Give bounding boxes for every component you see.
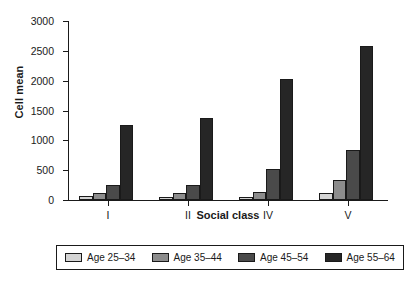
y-axis-tick-label: 1000 <box>31 134 54 146</box>
x-axis-tick <box>348 200 349 206</box>
bar <box>106 185 120 200</box>
bar <box>266 169 280 200</box>
x-axis-tick <box>268 200 269 206</box>
bar <box>333 180 347 200</box>
y-axis-tick: 1500 <box>63 111 68 112</box>
bar <box>346 150 360 200</box>
bar <box>253 192 267 200</box>
bar-chart-figure: Cell mean 050010001500200025003000IIIIVV… <box>0 0 416 281</box>
y-axis-tick: 1000 <box>63 140 68 141</box>
bar-group <box>79 21 133 200</box>
y-axis-tick: 2000 <box>63 81 68 82</box>
y-axis-tick: 500 <box>63 170 68 171</box>
bar <box>360 46 374 200</box>
y-axis-tick-label: 2000 <box>31 75 54 87</box>
legend-swatch-icon <box>238 253 255 262</box>
bar-group <box>159 21 213 200</box>
y-axis-line <box>68 21 69 200</box>
bar <box>79 196 93 200</box>
bar <box>186 185 200 201</box>
legend-item[interactable]: Age 45–54 <box>238 252 308 263</box>
legend-label: Age 55–64 <box>347 252 395 263</box>
bar-group <box>319 21 373 200</box>
y-axis-tick-label: 1500 <box>31 105 54 117</box>
y-axis-tick-label: 500 <box>36 164 54 176</box>
y-axis-tick-label: 3000 <box>31 15 54 27</box>
legend-label: Age 45–54 <box>260 252 308 263</box>
x-axis-tick <box>188 200 189 206</box>
bar <box>280 79 294 200</box>
legend-swatch-icon <box>152 253 169 262</box>
bar-group <box>239 21 293 200</box>
bar <box>159 197 173 200</box>
y-axis-tick-label: 0 <box>48 194 54 206</box>
legend-label: Age 35–44 <box>174 252 222 263</box>
legend-label: Age 25–34 <box>87 252 135 263</box>
y-axis-tick-label: 2500 <box>31 45 54 57</box>
legend-swatch-icon <box>325 253 342 262</box>
y-axis-title: Cell mean <box>13 52 25 132</box>
legend-item[interactable]: Age 55–64 <box>325 252 395 263</box>
legend-item[interactable]: Age 25–34 <box>65 252 135 263</box>
legend-swatch-icon <box>65 253 82 262</box>
x-axis-title: Social class <box>68 209 388 221</box>
x-axis-tick <box>108 200 109 206</box>
x-axis-line <box>68 200 388 201</box>
bar <box>200 118 214 200</box>
y-axis-tick: 0 <box>63 200 68 201</box>
chart-legend: Age 25–34Age 35–44Age 45–54Age 55–64 <box>56 245 404 270</box>
y-axis-tick: 2500 <box>63 51 68 52</box>
bar <box>239 197 253 200</box>
bar <box>93 193 107 200</box>
bar <box>173 193 187 200</box>
plot-area: 050010001500200025003000IIIIVV <box>68 21 388 200</box>
legend-item[interactable]: Age 35–44 <box>152 252 222 263</box>
bar <box>319 193 333 200</box>
bar <box>120 125 134 200</box>
y-axis-tick: 3000 <box>63 21 68 22</box>
